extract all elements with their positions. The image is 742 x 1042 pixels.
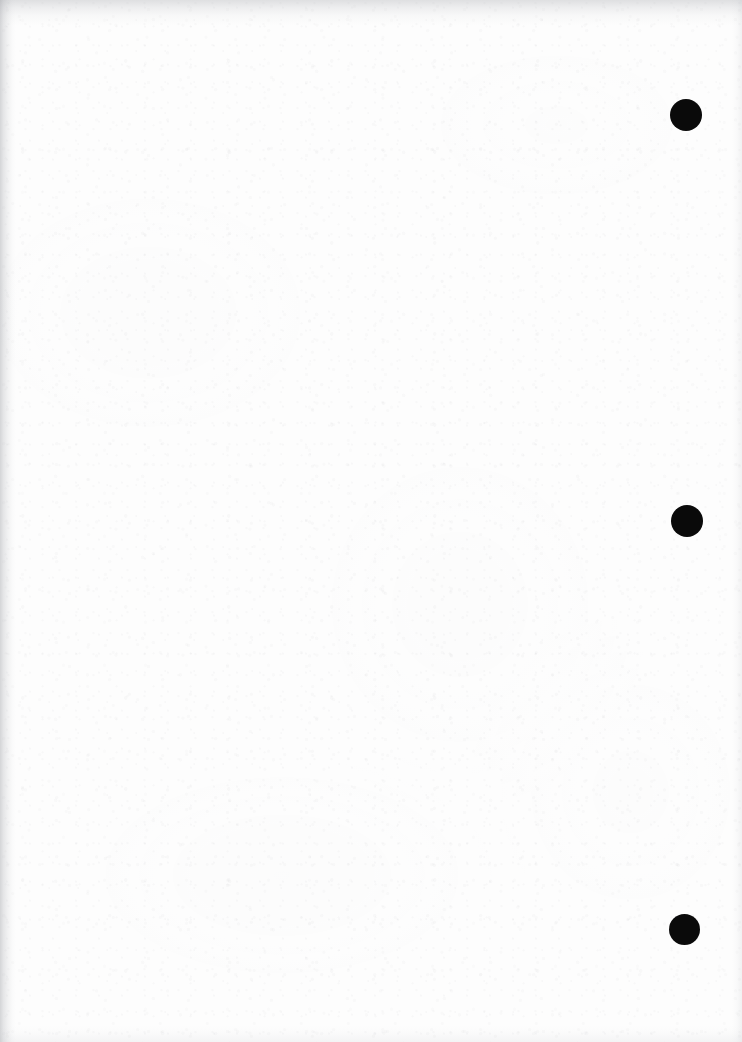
paper-grain-texture <box>0 0 742 1042</box>
hole-mark-top <box>670 99 702 131</box>
hole-mark-bottom <box>669 914 700 945</box>
paper-mottle-texture <box>0 0 742 1042</box>
scan-edge-shadow-right <box>732 0 742 1042</box>
scan-edge-shadow-bottom <box>0 1026 742 1042</box>
scanned-page <box>0 0 742 1042</box>
paper-speckle-texture <box>0 0 742 1042</box>
scan-edge-shadow-left <box>0 0 16 1042</box>
hole-mark-middle <box>671 505 703 537</box>
scan-edge-shadow-top <box>0 0 742 26</box>
